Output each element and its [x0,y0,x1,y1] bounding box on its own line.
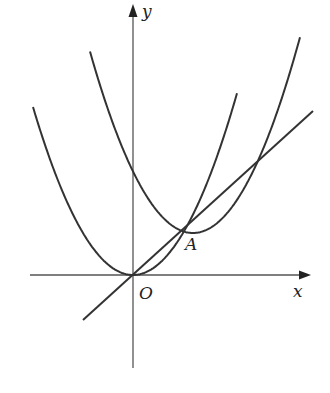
graph-canvas [0,0,330,393]
origin-label: O [139,285,153,302]
coordinate-diagram: y x O A [0,0,330,393]
x-axis-label: x [293,283,303,300]
y-axis-label: y [142,3,152,20]
y-axis-arrow-icon [129,4,138,17]
point-a-label: A [185,236,197,253]
tangent-line [83,111,313,320]
parabola-upper [90,37,300,233]
parabola-through-origin [33,93,237,275]
x-axis-arrow-icon [299,271,311,280]
